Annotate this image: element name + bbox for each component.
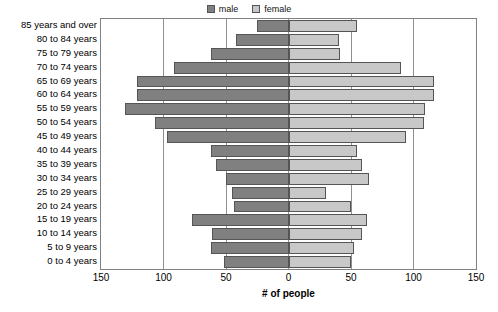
bar-male — [174, 62, 289, 74]
bar-female — [289, 131, 407, 143]
y-axis-label: 45 to 49 years — [37, 131, 97, 141]
x-axis-title: # of people — [100, 288, 477, 299]
bar-female — [289, 62, 402, 74]
bar-female — [289, 103, 425, 115]
y-axis-label: 50 to 54 years — [37, 117, 97, 127]
y-axis-label: 25 to 29 years — [37, 187, 97, 197]
bar-male — [137, 76, 288, 88]
bar-female — [289, 201, 352, 213]
bar-female — [289, 89, 434, 101]
bar-row — [101, 75, 476, 89]
bar-row — [101, 33, 476, 47]
bar-row — [101, 241, 476, 255]
bar-row — [101, 102, 476, 116]
x-axis-tick-label: 100 — [155, 272, 172, 284]
bar-row — [101, 213, 476, 227]
x-axis-tick-label: 150 — [468, 272, 485, 284]
y-axis-label: 70 to 74 years — [37, 62, 97, 72]
bar-female — [289, 145, 358, 157]
plot-region — [101, 19, 476, 269]
bar-row — [101, 19, 476, 33]
bar-female — [289, 48, 340, 60]
bar-male — [137, 89, 288, 101]
legend-label: female — [264, 5, 291, 14]
y-axis-label: 20 to 24 years — [37, 201, 97, 211]
bar-male — [234, 201, 289, 213]
bar-male — [192, 214, 288, 226]
bar-row — [101, 116, 476, 130]
bar-male — [125, 103, 289, 115]
bar-male — [257, 20, 288, 32]
x-axis-tick-label: 50 — [345, 272, 356, 284]
bar-female — [289, 159, 363, 171]
y-axis-label: 0 to 4 years — [47, 256, 97, 266]
bar-female — [289, 256, 352, 268]
chart-legend: malefemale — [0, 2, 498, 16]
bar-female — [289, 34, 339, 46]
bar-row — [101, 227, 476, 241]
bar-female — [289, 117, 424, 129]
x-axis-labels: 15010050050100150 — [100, 272, 477, 286]
bar-male — [236, 34, 289, 46]
bar-male — [211, 145, 289, 157]
y-axis-label: 85 years and over — [21, 20, 97, 30]
bar-row — [101, 88, 476, 102]
bar-male — [212, 228, 288, 240]
y-axis-label: 30 to 34 years — [37, 173, 97, 183]
bar-female — [289, 173, 369, 185]
bar-row — [101, 61, 476, 75]
x-axis-tick-label: 150 — [93, 272, 110, 284]
bar-male — [226, 173, 289, 185]
bar-row — [101, 186, 476, 200]
bar-male — [224, 256, 289, 268]
bar-row — [101, 200, 476, 214]
x-axis-tick-label: 0 — [286, 272, 292, 284]
y-axis-label: 55 to 59 years — [37, 103, 97, 113]
bar-female — [289, 187, 327, 199]
y-axis-label: 65 to 69 years — [37, 76, 97, 86]
bar-row — [101, 130, 476, 144]
bar-male — [211, 242, 289, 254]
bar-male — [167, 131, 288, 143]
bar-female — [289, 76, 434, 88]
bar-male — [155, 117, 289, 129]
legend-label: male — [219, 5, 239, 14]
bar-female — [289, 214, 368, 226]
y-axis-label: 5 to 9 years — [47, 242, 97, 252]
y-axis-label: 75 to 79 years — [37, 48, 97, 58]
y-axis-label: 35 to 39 years — [37, 159, 97, 169]
bar-row — [101, 47, 476, 61]
y-axis-label: 15 to 19 years — [37, 214, 97, 224]
bar-male — [232, 187, 288, 199]
legend-entry: female — [252, 5, 291, 14]
x-axis-tick-label: 100 — [405, 272, 422, 284]
square-swatch-icon — [252, 5, 260, 13]
legend-entry: male — [207, 5, 239, 14]
bar-row — [101, 255, 476, 269]
bar-female — [289, 228, 363, 240]
y-axis-label: 10 to 14 years — [37, 228, 97, 238]
bar-male — [216, 159, 289, 171]
y-axis-labels: 0 to 4 years5 to 9 years10 to 14 years15… — [0, 18, 97, 270]
chart-plot-frame — [100, 18, 477, 270]
y-axis-label: 80 to 84 years — [37, 34, 97, 44]
bar-row — [101, 158, 476, 172]
bar-row — [101, 172, 476, 186]
bar-female — [289, 242, 354, 254]
y-axis-label: 40 to 44 years — [37, 145, 97, 155]
square-swatch-icon — [207, 5, 215, 13]
y-axis-label: 60 to 64 years — [37, 89, 97, 99]
bar-row — [101, 144, 476, 158]
x-axis-tick-label: 50 — [220, 272, 231, 284]
bar-male — [211, 48, 289, 60]
bar-female — [289, 20, 358, 32]
